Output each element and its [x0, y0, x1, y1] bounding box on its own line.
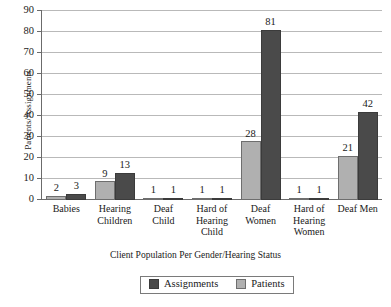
- legend-label-patients: Patients: [251, 279, 284, 290]
- bar-value-label: 3: [62, 181, 90, 192]
- bar-group: 11: [143, 10, 183, 200]
- bar-patients: [46, 196, 66, 200]
- x-axis-label-line: Women: [278, 226, 340, 238]
- bar-chart: Patients/Assignments 0102030405060708090…: [0, 0, 391, 307]
- tick-mark: [37, 52, 41, 53]
- y-axis-tick-label: 40: [24, 110, 35, 121]
- bars-layer: 2391311112881112142: [42, 10, 382, 200]
- bar-patients: [289, 198, 309, 200]
- x-axis-title: Client Population Per Gender/Hearing Sta…: [0, 250, 391, 260]
- bar-value-label: 1: [305, 185, 333, 196]
- bar-group: 23: [46, 10, 86, 200]
- x-axis-label: Deaf Men: [327, 203, 389, 215]
- legend-swatch-patients-icon: [236, 279, 246, 289]
- tick-mark: [37, 199, 41, 200]
- legend-label-assignments: Assignments: [164, 279, 218, 290]
- legend-item-assignments: Assignments: [149, 279, 218, 290]
- bar-assignments: [66, 194, 86, 200]
- bar-group: 913: [95, 10, 135, 200]
- bar-assignments: [261, 30, 281, 200]
- y-axis-tick-label: 20: [24, 152, 35, 163]
- bar-value-label: 13: [111, 160, 139, 171]
- bar-patients: [192, 198, 212, 200]
- bar-group: 11: [289, 10, 329, 200]
- x-axis-category-labels: BabiesHearingChildrenDeafChildHard ofHea…: [42, 203, 382, 249]
- y-axis-tick-label: 30: [24, 131, 35, 142]
- tick-mark: [37, 157, 41, 158]
- bar-group: 11: [192, 10, 232, 200]
- y-axis-tick-label: 80: [24, 26, 35, 37]
- y-axis-tick-label: 70: [24, 47, 35, 58]
- bar-assignments: [309, 198, 329, 200]
- bar-value-label: 1: [159, 185, 187, 196]
- tick-mark: [37, 94, 41, 95]
- x-axis-label-line: Child: [181, 226, 243, 238]
- plot-area: 0102030405060708090 2391311112881112142: [41, 10, 382, 200]
- y-axis-tick-label: 0: [29, 194, 34, 205]
- tick-mark: [37, 115, 41, 116]
- tick-mark: [37, 10, 41, 11]
- bar-value-label: 42: [354, 99, 382, 110]
- y-axis-tick-label: 90: [24, 5, 35, 16]
- y-axis-tick-label: 60: [24, 68, 35, 79]
- bar-patients: [241, 141, 261, 200]
- bar-group: 2142: [338, 10, 378, 200]
- bar-assignments: [212, 198, 232, 200]
- bar-patients: [338, 156, 358, 200]
- tick-mark: [37, 136, 41, 137]
- bar-assignments: [358, 112, 378, 200]
- x-axis-label-line: Deaf Men: [327, 203, 389, 215]
- tick-mark: [37, 178, 41, 179]
- y-axis-tick-label: 10: [24, 173, 35, 184]
- legend-swatch-assignments-icon: [149, 279, 159, 289]
- bar-patients: [95, 181, 115, 200]
- bar-group: 2881: [241, 10, 281, 200]
- chart-legend: Assignments Patients: [140, 276, 294, 294]
- y-axis-tick-label: 50: [24, 89, 35, 100]
- legend-item-patients: Patients: [236, 279, 284, 290]
- tick-mark: [37, 73, 41, 74]
- bar-patients: [143, 198, 163, 200]
- bar-assignments: [163, 198, 183, 200]
- bar-assignments: [115, 173, 135, 200]
- bar-value-label: 1: [208, 185, 236, 196]
- bar-value-label: 81: [257, 17, 285, 28]
- x-axis-label-line: Hearing: [278, 215, 340, 227]
- tick-mark: [37, 31, 41, 32]
